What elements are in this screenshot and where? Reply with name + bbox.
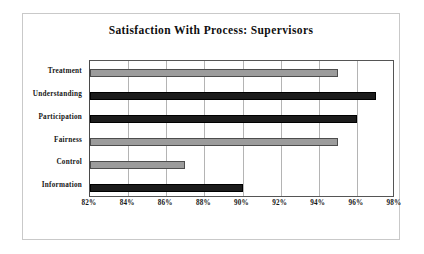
bar-fairness xyxy=(90,138,338,146)
bar-row xyxy=(90,84,393,107)
x-tick-label-88: 88% xyxy=(196,199,211,207)
x-tick-label-86: 86% xyxy=(158,199,173,207)
bar-row xyxy=(90,107,393,130)
bar-understanding xyxy=(90,92,376,100)
y-tick-label-fairness: Fairness xyxy=(54,129,82,152)
bar-treatment xyxy=(90,69,338,77)
chart-title: Satisfaction With Process: Supervisors xyxy=(23,24,399,36)
x-axis-labels: 82%84%86%88%90%92%94%96%98% xyxy=(89,199,394,213)
bar-row xyxy=(90,175,393,198)
x-tick-label-94: 94% xyxy=(310,199,325,207)
bar-information xyxy=(90,184,243,192)
bar-row xyxy=(90,61,393,84)
x-tick-label-92: 92% xyxy=(272,199,287,207)
y-axis-labels: TreatmentUnderstandingParticipationFairn… xyxy=(23,60,85,197)
bar-row xyxy=(90,152,393,175)
y-tick-label-control: Control xyxy=(56,151,82,174)
y-tick-label-participation: Participation xyxy=(38,106,82,129)
x-tick-label-90: 90% xyxy=(234,199,249,207)
x-tick-label-98: 98% xyxy=(387,199,402,207)
y-tick-label-information: Information xyxy=(42,174,82,197)
y-tick-label-understanding: Understanding xyxy=(33,83,82,106)
chart-frame: Satisfaction With Process: Supervisors T… xyxy=(22,13,400,240)
x-tick-label-84: 84% xyxy=(120,199,135,207)
bar-control xyxy=(90,161,185,169)
plot-area xyxy=(89,60,394,197)
x-tick-label-96: 96% xyxy=(348,199,363,207)
bar-participation xyxy=(90,115,357,123)
bar-series xyxy=(90,61,393,196)
bar-row xyxy=(90,130,393,153)
y-tick-label-treatment: Treatment xyxy=(48,60,82,83)
x-tick-label-82: 82% xyxy=(82,199,97,207)
